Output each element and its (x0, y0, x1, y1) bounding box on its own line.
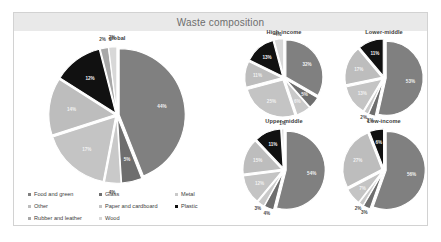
legend-item[interactable]: Wood (99, 213, 158, 224)
legend-column-3: Metal Plastic (175, 189, 197, 213)
legend-label: Metal (181, 192, 195, 198)
pie-canvas-global: 44%5%4%17%14%12%2%2% (32, 45, 202, 185)
pie-slice-label: 12% (86, 76, 95, 81)
pie-chart-lower-middle: Lower-middle 53%3%2%13%17%11% (334, 29, 434, 121)
pie-chart-high-income: High-income 32%5%6%25%11%13%4% (230, 29, 338, 121)
pie-slice-label: 5% (124, 157, 131, 162)
pie-slice-label: 54% (307, 171, 316, 176)
pie-svg-low-income: 56%3%2%7%27%6% (334, 127, 434, 215)
pie-slice-label: 27% (353, 158, 362, 163)
screenshot-root: Waste composition global 44%5%4%17%14%12… (0, 0, 441, 242)
pie-slice-label: 6% (375, 140, 382, 145)
pie-slice-label: 44% (157, 104, 166, 109)
pie-slice-label: 25% (267, 99, 276, 104)
pie-slice-label: 15% (253, 158, 262, 163)
legend-swatch-metal (175, 193, 178, 196)
pie-slice-label: 11% (268, 142, 277, 147)
pie-slice-label: 32% (302, 62, 311, 67)
pie-title-global: global (32, 35, 202, 41)
pie-slice-label: 5% (301, 92, 308, 97)
pie-chart-global: global 44%5%4%17%14%12%2%2% (32, 35, 202, 187)
pie-slice-label: 2% (355, 206, 362, 211)
legend-label: Glass (105, 192, 119, 198)
chart-legend: Food and green Other Rubber and leather … (28, 189, 238, 231)
pie-slice-label: 11% (253, 73, 262, 78)
legend-swatch-paper-and-cardboard (99, 205, 102, 208)
pie-canvas-lower-middle: 53%3%2%13%17%11% (334, 38, 434, 120)
legend-label: Other (34, 204, 48, 210)
pie-slice-label: 4% (275, 32, 282, 37)
pie-chart-low-income: Low-income 56%3%2%7%27%6% (334, 118, 434, 218)
pie-svg-global: 44%5%4%17%14%12%2%2% (32, 45, 202, 185)
legend-label: Plastic (181, 204, 197, 210)
pie-slice-label: 3% (254, 206, 261, 211)
pie-svg-upper-middle: 54%4%3%12%15%11%1% (230, 127, 338, 215)
legend-swatch-wood (99, 217, 102, 220)
pie-slice-label: 13% (263, 55, 272, 60)
legend-label: Wood (105, 216, 120, 222)
legend-swatch-glass (99, 193, 102, 196)
pie-slice-label: 13% (358, 91, 367, 96)
legend-item[interactable]: Other (28, 201, 82, 212)
page-title: Waste composition (177, 17, 265, 28)
pie-slice-label: 17% (82, 147, 91, 152)
pie-slice-label: 6% (294, 99, 301, 104)
pie-slice-label: 11% (370, 51, 379, 56)
chart-frame: Waste composition global 44%5%4%17%14%12… (13, 12, 428, 226)
legend-item[interactable]: Glass (99, 189, 158, 200)
pie-slice-label: 53% (406, 79, 415, 84)
pie-slice[interactable] (378, 41, 423, 115)
pie-slice-label: 7% (359, 186, 366, 191)
pie-svg-high-income: 32%5%6%25%11%13%4% (230, 38, 338, 120)
pie-title-low-income: Low-income (334, 118, 434, 124)
pie-slice-label: 4% (264, 211, 271, 216)
pie-slice-label: 12% (255, 181, 264, 186)
pie-title-lower-middle: Lower-middle (334, 29, 434, 35)
pie-slice-label: 17% (354, 67, 363, 72)
legend-swatch-plastic (175, 205, 178, 208)
legend-item[interactable]: Metal (175, 189, 197, 200)
pie-slice-label: 2% (109, 35, 116, 40)
legend-swatch-food-and-green (28, 193, 31, 196)
pie-canvas-high-income: 32%5%6%25%11%13%4% (230, 38, 338, 120)
pie-slice-label: 14% (67, 107, 76, 112)
pie-svg-lower-middle: 53%3%2%13%17%11% (334, 38, 434, 120)
pie-slice-label: 1% (279, 121, 286, 126)
pie-canvas-upper-middle: 54%4%3%12%15%11%1% (230, 127, 338, 215)
pie-slice-label: 2% (99, 37, 106, 42)
pie-canvas-low-income: 56%3%2%7%27%6% (334, 127, 434, 215)
pie-slice-label: 3% (361, 210, 368, 215)
pie-slice-label: 56% (407, 172, 416, 177)
pie-chart-upper-middle: Upper-middle 54%4%3%12%15%11%1% (230, 118, 338, 218)
legend-label: Paper and cardboard (105, 204, 158, 210)
legend-label: Rubber and leather (34, 216, 82, 222)
legend-item[interactable]: Paper and cardboard (99, 201, 158, 212)
legend-column-1: Food and green Other Rubber and leather (28, 189, 82, 225)
legend-item[interactable]: Rubber and leather (28, 213, 82, 224)
legend-label: Food and green (34, 192, 74, 198)
legend-swatch-rubber-and-leather (28, 217, 31, 220)
pie-title-high-income: High-income (230, 29, 338, 35)
legend-item[interactable]: Plastic (175, 201, 197, 212)
legend-swatch-other (28, 205, 31, 208)
legend-item[interactable]: Food and green (28, 189, 82, 200)
legend-column-2: Glass Paper and cardboard Wood (99, 189, 158, 225)
